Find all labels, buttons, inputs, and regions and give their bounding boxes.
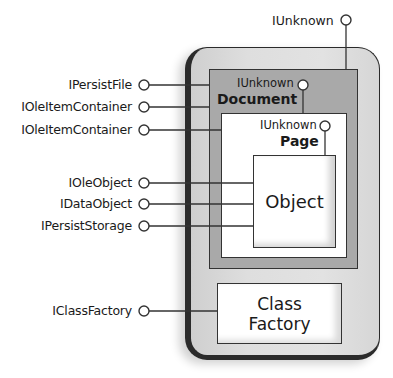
lollipop-iclassfactory-icon: [139, 306, 149, 316]
interface-label-ioleobject: IOleObject: [0, 176, 132, 190]
top-iunknown-label: IUnknown: [272, 13, 334, 28]
lollipop-ioleobject-icon: [139, 178, 149, 188]
object-box: Object: [253, 155, 336, 248]
page-title: Page: [280, 133, 319, 149]
interface-label-iclassfactory: IClassFactory: [0, 304, 132, 318]
class-factory-line1: Class: [257, 294, 302, 314]
lollipop-ioleitemcontainer-page-icon: [139, 125, 149, 135]
class-factory-box: Class Factory: [217, 283, 342, 344]
lollipop-ioleitemcontainer-document-icon: [139, 102, 149, 112]
document-iunknown-label: IUnknown: [237, 77, 294, 90]
interface-label-idataobject: IDataObject: [0, 197, 132, 211]
lollipop-ipersistfile-icon: [139, 80, 149, 90]
document-title: Document: [217, 91, 297, 107]
interface-label-ioleitemcontainer-page: IOleItemContainer: [0, 123, 132, 137]
interface-label-ipersiststorage: IPersistStorage: [0, 219, 132, 233]
interface-label-ipersistfile: IPersistFile: [0, 78, 132, 92]
lollipop-top-iunknown-icon: [341, 15, 351, 25]
class-factory-line2: Factory: [248, 314, 310, 334]
object-title: Object: [265, 191, 324, 212]
lollipop-idataobject-icon: [139, 199, 149, 209]
lollipop-ipersiststorage-icon: [139, 221, 149, 231]
page-iunknown-label: IUnknown: [260, 119, 317, 132]
interface-label-ioleitemcontainer-document: IOleItemContainer: [0, 100, 132, 114]
